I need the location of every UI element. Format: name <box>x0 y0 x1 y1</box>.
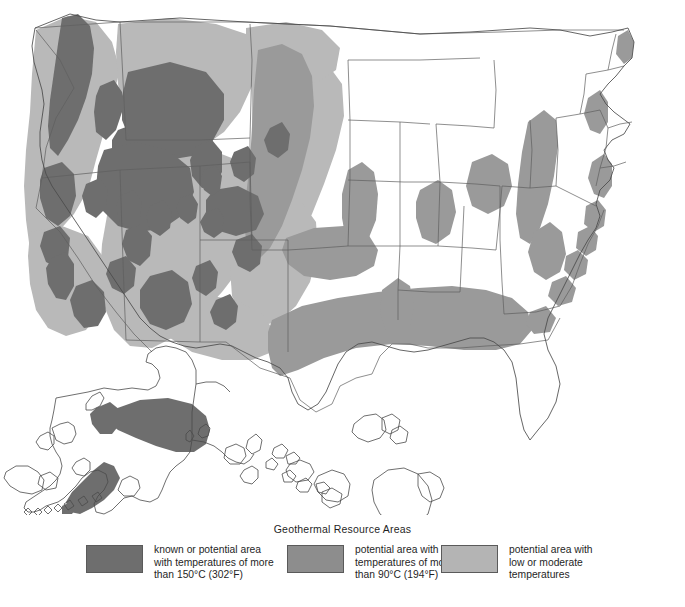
legend-item-medium-temperature: potential area with temperatures of more… <box>287 544 453 582</box>
legend-line-1: known or potential area <box>154 544 274 557</box>
legend-line-2: with temperatures of more <box>154 557 274 570</box>
legend-line-3: than 90°C (194°F) <box>355 569 453 582</box>
legend-line-3: temperatures <box>509 569 593 582</box>
legend-label-medium-temperature: potential area with temperatures of more… <box>355 544 453 582</box>
map-canvas <box>0 0 685 515</box>
geothermal-resource-figure: Geothermal Resource Areas known or poten… <box>0 0 685 607</box>
legend-label-high-temperature: known or potential area with temperature… <box>154 544 274 582</box>
legend-swatch-high-temperature <box>86 545 143 573</box>
legend-line-3: than 150°C (302°F) <box>154 569 274 582</box>
legend-swatch-low-moderate-temperature <box>441 545 498 573</box>
legend-label-low-moderate-temperature: potential area with low or moderate temp… <box>509 544 593 582</box>
united-states-map <box>0 0 685 515</box>
legend-item-low-moderate-temperature: potential area with low or moderate temp… <box>441 544 593 582</box>
legend-item-high-temperature: known or potential area with temperature… <box>86 544 274 582</box>
legend: Geothermal Resource Areas known or poten… <box>0 515 685 607</box>
legend-title: Geothermal Resource Areas <box>0 523 685 535</box>
legend-swatch-medium-temperature <box>287 545 344 573</box>
legend-items: known or potential area with temperature… <box>0 544 685 602</box>
legend-line-1: potential area with <box>355 544 453 557</box>
legend-line-1: potential area with <box>509 544 593 557</box>
legend-line-2: low or moderate <box>509 557 593 570</box>
legend-line-2: temperatures of more <box>355 557 453 570</box>
